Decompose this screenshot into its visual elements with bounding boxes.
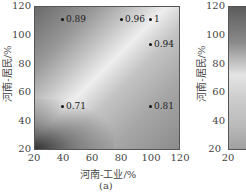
figure-caption: (a) (99, 180, 113, 191)
right-heatmap-plot-area (228, 6, 246, 150)
data-point: 0.89 (61, 15, 86, 24)
point-marker-icon (149, 105, 152, 108)
data-point: 0.71 (61, 102, 86, 111)
x-tick: 100 (139, 153, 163, 163)
y-tick: 120 (7, 1, 31, 11)
point-label: 0.81 (154, 101, 174, 111)
x-axis-label: 河南-工业/% (80, 166, 136, 181)
data-point: 0.96 (120, 15, 145, 24)
point-label: 0.71 (66, 101, 86, 111)
point-marker-icon (149, 43, 152, 46)
point-marker-icon (61, 105, 64, 108)
point-marker-icon (61, 18, 64, 21)
point-marker-icon (120, 18, 123, 21)
y-tick: 40 (201, 116, 225, 126)
y-tick: 40 (7, 116, 31, 126)
y-tick: 120 (201, 1, 225, 11)
point-marker-icon (149, 18, 152, 21)
y-axis-label: 河南-居民/% (0, 45, 14, 101)
data-point: 0.81 (149, 102, 174, 111)
y-tick: 100 (7, 30, 31, 40)
x-tick: 40 (51, 153, 75, 163)
x-tick: 80 (109, 153, 133, 163)
right-y-axis-label: 河南-居民/% (193, 45, 208, 101)
data-point: 1 (149, 15, 160, 24)
y-tick: 100 (201, 30, 225, 40)
point-label: 0.94 (154, 39, 174, 49)
heatmap-plot-area (34, 6, 180, 150)
point-label: 0.96 (125, 14, 145, 24)
x-tick: 20 (22, 153, 46, 163)
data-point: 0.94 (149, 40, 174, 49)
x-tick: 60 (80, 153, 104, 163)
point-label: 0.89 (66, 14, 86, 24)
point-label: 1 (154, 14, 160, 24)
x-tick: 120 (168, 153, 192, 163)
x-tick: 20 (216, 153, 240, 163)
